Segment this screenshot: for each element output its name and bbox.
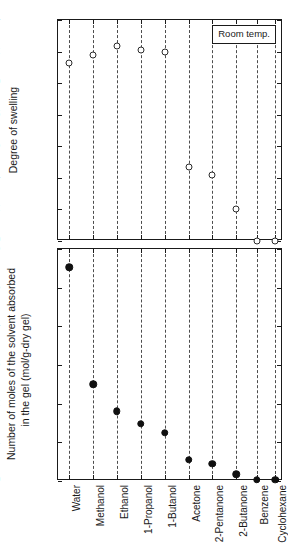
gridline-ethanol xyxy=(117,20,118,239)
data-point-2-pentanone xyxy=(209,171,216,178)
x-tick-mark xyxy=(212,475,213,479)
x-tick-mark xyxy=(69,475,70,479)
top-panel-plot-area: Room temp. xyxy=(57,19,282,240)
x-tick-mark xyxy=(189,475,190,479)
x-tick-mark xyxy=(236,249,237,253)
x-tick-mark xyxy=(69,20,70,24)
y-tick-mark xyxy=(277,249,281,250)
x-tick-mark xyxy=(93,20,94,24)
data-point-1-butanol xyxy=(161,429,169,437)
gridline-benzene xyxy=(257,249,258,479)
y-tick-mark xyxy=(58,404,62,405)
data-point-1-propanol xyxy=(137,420,145,428)
gridline-2-pentanone xyxy=(212,20,213,239)
gridline-water xyxy=(69,249,70,479)
x-category-label-benzene: Benzene xyxy=(260,485,270,524)
x-tick-mark xyxy=(93,475,94,479)
x-category-label-methanol: Methanol xyxy=(96,485,106,526)
x-tick-mark xyxy=(257,20,258,24)
y-tick-mark xyxy=(58,209,62,210)
x-tick-mark xyxy=(93,235,94,239)
x-tick-mark xyxy=(93,249,94,253)
x-tick-mark xyxy=(117,249,118,253)
x-tick-mark xyxy=(275,249,276,253)
x-tick-mark xyxy=(275,20,276,24)
y-tick-mark xyxy=(58,52,62,53)
x-tick-mark xyxy=(212,235,213,239)
data-point-ethanol xyxy=(113,43,120,50)
gridline-cyclohexane xyxy=(275,249,276,479)
gridline-2-pentanone xyxy=(212,249,213,479)
gridline-benzene xyxy=(257,20,258,239)
data-point-methanol xyxy=(90,51,97,58)
data-point-1-propanol xyxy=(137,46,144,53)
y-tick-mark xyxy=(277,20,281,21)
data-point-2-butanone xyxy=(233,206,240,213)
gridline-cyclohexane xyxy=(275,20,276,239)
x-category-label-2-butanone: 2-Butanone xyxy=(239,485,249,537)
x-tick-mark xyxy=(165,235,166,239)
bottom-panel-y-axis-title-line2: in the gel (mol/g-dry gel) xyxy=(18,313,30,426)
bottom-panel-plot-area xyxy=(57,248,282,480)
data-point-acetone xyxy=(185,163,192,170)
data-point-acetone xyxy=(185,456,193,464)
y-tick-mark xyxy=(58,481,62,482)
x-tick-mark xyxy=(69,235,70,239)
gridline-2-butanone xyxy=(236,249,237,479)
x-tick-mark xyxy=(257,249,258,253)
y-tick-mark xyxy=(58,146,62,147)
data-point-ethanol xyxy=(113,407,121,415)
y-tick-mark xyxy=(58,178,62,179)
x-category-label-1-propanol: 1-Propanol xyxy=(144,485,154,534)
x-tick-mark xyxy=(212,20,213,24)
x-tick-mark xyxy=(189,249,190,253)
y-tick-mark xyxy=(58,288,62,289)
x-category-label-acetone: Acetone xyxy=(192,485,202,522)
x-tick-mark xyxy=(212,249,213,253)
y-tick-mark xyxy=(58,20,62,21)
gridline-acetone xyxy=(189,20,190,239)
y-tick-mark xyxy=(277,365,281,366)
x-tick-mark xyxy=(236,20,237,24)
x-tick-mark xyxy=(165,20,166,24)
y-tick-mark xyxy=(58,241,62,242)
x-tick-mark xyxy=(141,475,142,479)
figure-canvas: Degree of swelling 02468101214 Room temp… xyxy=(0,0,288,550)
gridline-ethanol xyxy=(117,249,118,479)
gridline-methanol xyxy=(93,249,94,479)
data-point-cyclohexane xyxy=(271,476,279,484)
y-tick-mark xyxy=(277,442,281,443)
x-category-label-cyclohexane: Cyclohexane xyxy=(278,485,288,543)
legend-room-temp: Room temp. xyxy=(212,25,276,44)
y-tick-mark xyxy=(277,115,281,116)
gridline-water xyxy=(69,20,70,239)
y-tick-mark xyxy=(58,365,62,366)
x-category-label-1-butanol: 1-Butanol xyxy=(168,485,178,528)
data-point-benzene xyxy=(253,238,260,245)
y-tick-mark xyxy=(277,326,281,327)
x-category-label-water: Water xyxy=(72,485,82,511)
data-point-1-butanol xyxy=(161,49,168,56)
top-panel-y-axis-title: Degree of swelling xyxy=(7,86,19,172)
x-tick-mark xyxy=(189,20,190,24)
x-tick-mark xyxy=(117,235,118,239)
y-tick-mark xyxy=(277,83,281,84)
y-tick-mark xyxy=(277,209,281,210)
bottom-panel-y-axis-title-line1: Number of moles of the solvent absorbed xyxy=(5,268,17,460)
y-tick-mark xyxy=(58,249,62,250)
gridline-acetone xyxy=(189,249,190,479)
y-tick-mark xyxy=(277,146,281,147)
gridline-1-butanol xyxy=(165,249,166,479)
x-tick-mark xyxy=(141,249,142,253)
y-tick-mark xyxy=(58,83,62,84)
data-point-cyclohexane xyxy=(272,238,279,245)
y-tick-mark xyxy=(58,326,62,327)
x-tick-mark xyxy=(189,235,190,239)
data-point-2-butanone xyxy=(232,471,240,479)
x-tick-mark xyxy=(117,475,118,479)
gridline-1-propanol xyxy=(141,249,142,479)
data-point-benzene xyxy=(253,476,261,484)
y-tick-mark xyxy=(277,288,281,289)
y-tick-mark xyxy=(277,404,281,405)
x-tick-mark xyxy=(69,249,70,253)
